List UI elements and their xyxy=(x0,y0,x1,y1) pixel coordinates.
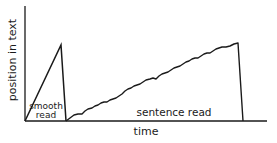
smooth-read-label-line2: read xyxy=(36,110,56,120)
sentence-read-label: sentence read xyxy=(136,106,211,118)
diagram: position in text time smooth read senten… xyxy=(0,0,277,143)
x-axis-label: time xyxy=(134,125,159,138)
y-axis-label: position in text xyxy=(6,18,19,101)
